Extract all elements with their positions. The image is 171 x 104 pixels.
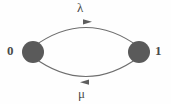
state-node-1 (128, 41, 150, 63)
state-label-0: 0 (7, 44, 14, 57)
arrowhead-right-icon (83, 19, 92, 24)
transition-arc-zero-to-one (33, 28, 139, 48)
arrowhead-left-icon (80, 80, 89, 85)
state-label-1: 1 (155, 44, 162, 57)
state-transition-diagram: 0 1 λ μ (0, 0, 171, 104)
diagram-graphics-layer (0, 0, 171, 104)
transition-rate-label-mu: μ (78, 87, 85, 100)
transition-arc-one-to-zero (33, 57, 139, 77)
state-node-0 (22, 41, 44, 63)
transition-rate-label-lambda: λ (77, 1, 83, 14)
